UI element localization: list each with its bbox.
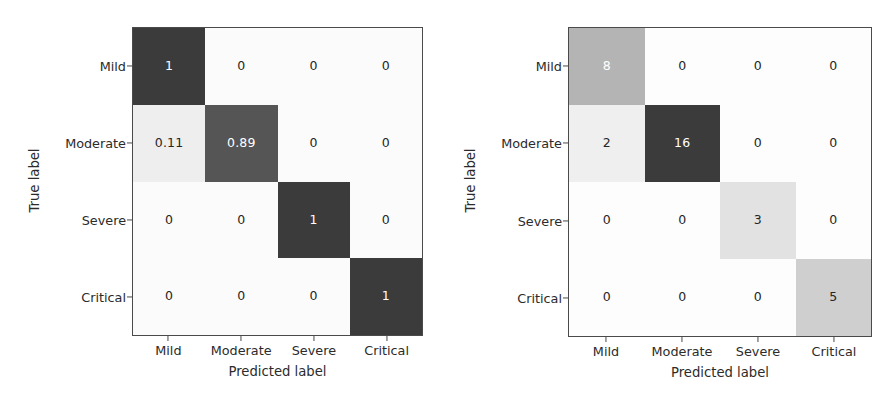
matrix-cell: 1 [278, 182, 350, 259]
y-tick-label: Critical [517, 291, 562, 306]
matrix-cell: 1 [350, 258, 422, 335]
matrix-cell: 0 [720, 105, 796, 182]
matrix-cell-value: 0 [754, 291, 762, 304]
matrix-cell: 0 [278, 105, 350, 182]
matrix-cell: 0 [569, 182, 645, 259]
matrix-cell-value: 5 [829, 291, 837, 304]
matrix-cell-value: 0 [237, 60, 245, 73]
matrix-cell-value: 8 [603, 60, 611, 73]
confusion-matrix-normalized-panel: True label MildModerateSevereCritical 10… [0, 0, 446, 412]
x-tick-label: Critical [350, 343, 423, 358]
matrix-cell-value: 2 [603, 137, 611, 150]
y-tick-mark [563, 65, 568, 66]
y-tick-label: Critical [81, 290, 126, 305]
confusion-matrix-figure: True label MildModerateSevereCritical 10… [0, 0, 893, 412]
matrix-cell: 0 [278, 258, 350, 335]
x-tick-label: Moderate [644, 344, 720, 359]
x-tick-mark [757, 337, 758, 342]
matrix-cell: 0 [645, 259, 721, 336]
matrix-cell: 0 [645, 182, 721, 259]
matrix-cell: 2 [569, 105, 645, 182]
matrix-cell: 1 [133, 28, 205, 105]
matrix-cell: 0 [350, 182, 422, 259]
x-axis-label-right: Predicted label [568, 365, 872, 380]
matrix-cell: 0 [720, 259, 796, 336]
matrix-cell: 0 [205, 28, 277, 105]
matrix-cell: 0 [645, 28, 721, 105]
y-tick-label: Severe [518, 213, 562, 228]
matrix-cell-value: 0.11 [155, 137, 184, 150]
matrix-cell-value: 0 [382, 137, 390, 150]
x-tick-label: Mild [132, 343, 205, 358]
x-tick-mark [681, 337, 682, 342]
matrix-cell-value: 0 [678, 214, 686, 227]
plot-area-left: 10000.110.890000100001 [132, 27, 423, 336]
matrix-cell-value: 0 [678, 291, 686, 304]
matrix-cell-value: 0 [754, 60, 762, 73]
y-tick-label: Moderate [501, 136, 562, 151]
matrix-cell-value: 0 [829, 214, 837, 227]
matrix-cell-value: 0 [382, 60, 390, 73]
matrix-cell-value: 0 [382, 214, 390, 227]
x-tick-labels-left: MildModerateSevereCritical [132, 343, 423, 358]
y-tick-label: Mild [100, 58, 126, 73]
matrix-cell: 16 [645, 105, 721, 182]
y-tick-mark [563, 143, 568, 144]
matrix-grid-right: 80002160000300005 [569, 28, 871, 336]
matrix-cell-value: 0 [678, 60, 686, 73]
matrix-cell-value: 0.89 [227, 137, 256, 150]
matrix-cell: 0 [796, 28, 872, 105]
x-tick-label: Severe [278, 343, 351, 358]
x-tick-mark [313, 336, 314, 341]
matrix-cell-value: 0 [829, 137, 837, 150]
matrix-cell: 0 [350, 105, 422, 182]
x-tick-mark [833, 337, 834, 342]
matrix-cell: 8 [569, 28, 645, 105]
matrix-cell: 0.11 [133, 105, 205, 182]
matrix-cell: 0 [720, 28, 796, 105]
x-axis-label-left: Predicted label [132, 364, 423, 379]
y-axis-label-left: True label [27, 131, 42, 231]
matrix-cell: 0 [796, 182, 872, 259]
x-tick-labels-right: MildModerateSevereCritical [568, 344, 872, 359]
matrix-cell: 3 [720, 182, 796, 259]
matrix-cell-value: 0 [310, 290, 318, 303]
matrix-cell-value: 0 [603, 214, 611, 227]
y-tick-mark [563, 220, 568, 221]
x-tick-mark [168, 336, 169, 341]
matrix-cell: 0 [205, 258, 277, 335]
matrix-cell-value: 1 [310, 214, 318, 227]
y-tick-mark [127, 220, 132, 221]
y-tick-mark [127, 142, 132, 143]
matrix-cell-value: 0 [165, 214, 173, 227]
matrix-cell-value: 0 [237, 290, 245, 303]
matrix-cell-value: 0 [829, 60, 837, 73]
y-tick-labels-left: MildModerateSevereCritical [56, 27, 126, 336]
matrix-grid-left: 10000.110.890000100001 [133, 28, 422, 335]
y-tick-mark [563, 298, 568, 299]
y-tick-mark [127, 297, 132, 298]
matrix-cell: 0 [133, 182, 205, 259]
matrix-cell: 0 [350, 28, 422, 105]
matrix-cell: 0 [278, 28, 350, 105]
x-tick-mark [605, 337, 606, 342]
y-tick-label: Moderate [65, 135, 126, 150]
matrix-cell: 0 [133, 258, 205, 335]
matrix-cell-value: 1 [165, 60, 173, 73]
x-tick-label: Critical [796, 344, 872, 359]
matrix-cell-value: 0 [603, 291, 611, 304]
x-tick-label: Severe [720, 344, 796, 359]
matrix-cell-value: 0 [237, 214, 245, 227]
y-axis-label-right: True label [463, 131, 478, 231]
matrix-cell: 0 [796, 105, 872, 182]
matrix-cell-value: 0 [165, 290, 173, 303]
matrix-cell: 0.89 [205, 105, 277, 182]
matrix-cell: 0 [205, 182, 277, 259]
y-tick-mark [127, 65, 132, 66]
x-tick-label: Moderate [205, 343, 278, 358]
matrix-cell-value: 3 [754, 214, 762, 227]
y-tick-label: Mild [536, 58, 562, 73]
matrix-cell: 5 [796, 259, 872, 336]
x-tick-mark [241, 336, 242, 341]
matrix-cell-value: 0 [754, 137, 762, 150]
